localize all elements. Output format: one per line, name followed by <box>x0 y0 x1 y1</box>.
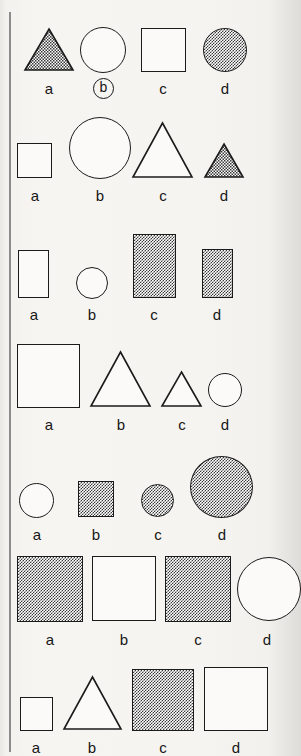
row-3-option-c-shape[interactable] <box>133 234 176 298</box>
row-5-option-d-shape[interactable] <box>190 456 253 518</box>
row-7-option-d-shape[interactable] <box>204 667 268 731</box>
row-1-option-a-shape[interactable] <box>23 27 75 72</box>
row-4-option-c-shape[interactable] <box>160 370 203 408</box>
row-2-option-b-shape[interactable] <box>69 117 131 179</box>
row-5-label-a[interactable]: a <box>26 527 48 542</box>
row-1-option-b-shape[interactable] <box>80 27 126 73</box>
row-6-option-c-shape[interactable] <box>165 556 231 622</box>
row-3-label-d[interactable]: d <box>206 307 228 322</box>
row-2-option-c-shape[interactable] <box>131 121 194 179</box>
row-6-option-d-shape[interactable] <box>237 557 301 621</box>
row-6-label-a[interactable]: a <box>39 632 61 647</box>
row-3-label-c[interactable]: c <box>143 307 165 322</box>
row-4-option-b-shape[interactable] <box>89 350 152 408</box>
row-2-option-a-shape[interactable] <box>17 143 52 178</box>
row-6-label-b[interactable]: b <box>113 632 135 647</box>
row-4-label-a[interactable]: a <box>38 417 60 432</box>
row-2-label-c[interactable]: c <box>152 188 174 203</box>
row-7-option-c-shape[interactable] <box>132 669 194 731</box>
row-2-option-d-shape[interactable] <box>203 142 245 179</box>
row-7-option-a-shape[interactable] <box>20 697 53 731</box>
row-6-label-c[interactable]: c <box>187 632 209 647</box>
row-6-label-d[interactable]: d <box>256 632 278 647</box>
row-7-label-c[interactable]: c <box>152 740 174 755</box>
row-7-option-b-shape[interactable] <box>62 675 123 731</box>
page-margin-rule <box>9 12 11 752</box>
row-4-option-d-shape[interactable] <box>208 373 242 407</box>
row-5-label-d[interactable]: d <box>211 527 233 542</box>
row-3-option-a-shape[interactable] <box>18 250 49 298</box>
row-4-label-d[interactable]: d <box>214 417 236 432</box>
row-1-label-b-marked[interactable]: b <box>93 78 114 99</box>
row-7-label-a[interactable]: a <box>25 740 47 755</box>
row-4-label-b[interactable]: b <box>110 417 132 432</box>
row-2-label-d[interactable]: d <box>213 188 235 203</box>
row-1-option-d-shape[interactable] <box>203 28 247 72</box>
row-5-option-a-shape[interactable] <box>19 483 54 518</box>
row-5-label-b[interactable]: b <box>85 527 107 542</box>
row-3-option-d-shape[interactable] <box>202 249 233 298</box>
row-1-label-d[interactable]: d <box>214 81 236 96</box>
row-7-label-d[interactable]: d <box>225 740 247 755</box>
row-2-label-a[interactable]: a <box>24 188 46 203</box>
row-7-label-b[interactable]: b <box>81 740 103 755</box>
row-5-option-c-shape[interactable] <box>141 484 174 517</box>
row-1-option-c-shape[interactable] <box>141 28 186 72</box>
test-sheet-page: a b c d a b c d a b c d <box>0 0 301 756</box>
row-1-label-a[interactable]: a <box>38 81 60 96</box>
row-4-label-c[interactable]: c <box>171 417 193 432</box>
row-3-label-a[interactable]: a <box>23 307 45 322</box>
row-2-label-b[interactable]: b <box>89 188 111 203</box>
row-3-label-b[interactable]: b <box>81 307 103 322</box>
row-5-option-b-shape[interactable] <box>78 481 114 517</box>
row-4-option-a-shape[interactable] <box>17 344 80 408</box>
row-3-option-b-shape[interactable] <box>76 267 108 299</box>
row-1-label-c[interactable]: c <box>152 81 174 96</box>
row-6-option-b-shape[interactable] <box>92 556 156 621</box>
row-6-option-a-shape[interactable] <box>17 556 83 622</box>
row-5-label-c[interactable]: c <box>147 527 169 542</box>
